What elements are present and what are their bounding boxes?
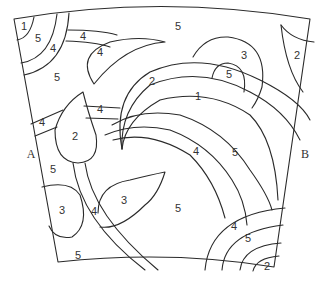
region-number: 4 xyxy=(50,42,56,54)
region-number: 5 xyxy=(175,202,181,214)
region-number: 3 xyxy=(121,194,127,206)
region-number: 4 xyxy=(39,116,45,128)
region-number: 5 xyxy=(50,163,56,175)
region-number: 1 xyxy=(195,90,201,102)
region-number: 2 xyxy=(294,49,300,61)
coloring-diagram: 15444553522144245533454552 AB xyxy=(0,0,329,293)
region-number: 5 xyxy=(226,68,232,80)
side-label-a: A xyxy=(27,147,36,161)
side-label-b: B xyxy=(301,147,309,161)
region-number: 4 xyxy=(97,46,103,58)
region-number: 5 xyxy=(35,32,41,44)
region-number: 2 xyxy=(149,75,155,87)
region-number: 2 xyxy=(72,130,78,142)
region-number: 4 xyxy=(91,205,97,217)
region-number: 5 xyxy=(245,232,251,244)
region-number: 4 xyxy=(97,103,103,115)
region-number: 4 xyxy=(193,145,199,157)
region-number: 4 xyxy=(80,30,86,42)
side-labels: AB xyxy=(27,147,309,161)
region-number-labels: 15444553522144245533454552 xyxy=(21,20,300,272)
region-number: 5 xyxy=(75,249,81,261)
diagram-labels: 15444553522144245533454552 AB xyxy=(0,0,329,293)
region-number: 3 xyxy=(241,49,247,61)
region-number: 5 xyxy=(175,20,181,32)
region-number: 1 xyxy=(21,20,27,32)
region-number: 5 xyxy=(54,71,60,83)
region-number: 3 xyxy=(59,204,65,216)
region-number: 2 xyxy=(264,260,270,272)
region-number: 5 xyxy=(232,146,238,158)
region-number: 4 xyxy=(231,220,237,232)
